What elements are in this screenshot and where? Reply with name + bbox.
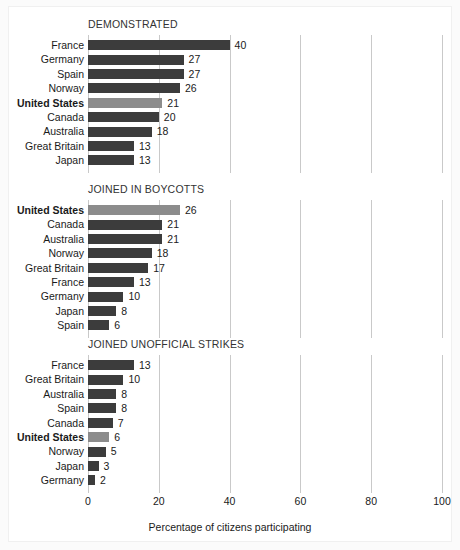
bar-value-label: 26: [185, 81, 197, 95]
bar-value-label: 7: [118, 416, 124, 430]
bar-value-label: 21: [167, 96, 179, 110]
category-label: Great Britain: [0, 139, 84, 153]
x-tick-label: 100: [433, 495, 451, 507]
x-axis-label: Percentage of citizens participating: [0, 521, 460, 533]
category-label: Spain: [0, 318, 84, 332]
bar: [88, 432, 109, 442]
chart-row: Norway18: [0, 246, 460, 260]
chart-row: Spain8: [0, 401, 460, 415]
category-label: United States: [0, 430, 84, 444]
category-label: Canada: [0, 110, 84, 124]
bar-value-label: 13: [139, 275, 151, 289]
chart-row: Germany2: [0, 473, 460, 487]
x-tick-label: 0: [85, 495, 91, 507]
x-tick-label: 60: [295, 495, 307, 507]
bar: [88, 40, 230, 50]
chart-row: France13: [0, 275, 460, 289]
category-label: France: [0, 38, 84, 52]
panel-plot-area: France13Great Britain10Australia8Spain8C…: [0, 355, 460, 493]
bar-value-label: 5: [111, 444, 117, 458]
bar: [88, 375, 123, 385]
panel-plot-area: United States26Canada21Australia21Norway…: [0, 200, 460, 338]
chart-figure: DEMONSTRATEDFrance40Germany27Spain27Norw…: [0, 0, 460, 550]
category-label: Germany: [0, 289, 84, 303]
chart-row: Japan13: [0, 153, 460, 167]
bar-value-label: 27: [189, 52, 201, 66]
bar: [88, 205, 180, 215]
panel-plot-area: France40Germany27Spain27Norway26United S…: [0, 35, 460, 173]
chart-row: Germany27: [0, 52, 460, 66]
bar: [88, 155, 134, 165]
category-label: Germany: [0, 52, 84, 66]
chart-row: Canada7: [0, 416, 460, 430]
bar-value-label: 8: [121, 387, 127, 401]
bar: [88, 447, 106, 457]
bar: [88, 69, 184, 79]
category-label: Australia: [0, 387, 84, 401]
bar: [88, 141, 134, 151]
bar-value-label: 27: [189, 67, 201, 81]
bar: [88, 306, 116, 316]
bar: [88, 263, 148, 273]
category-label: France: [0, 275, 84, 289]
category-label: Norway: [0, 246, 84, 260]
bar: [88, 360, 134, 370]
chart-row: Japan8: [0, 304, 460, 318]
chart-row: Germany10: [0, 289, 460, 303]
bar: [88, 277, 134, 287]
category-label: Japan: [0, 153, 84, 167]
bar-value-label: 21: [167, 232, 179, 246]
category-label: Norway: [0, 444, 84, 458]
bar-value-label: 13: [139, 139, 151, 153]
chart-row: United States21: [0, 96, 460, 110]
bar: [88, 248, 152, 258]
chart-row: Canada21: [0, 217, 460, 231]
bar: [88, 112, 159, 122]
bar: [88, 98, 162, 108]
category-label: Spain: [0, 67, 84, 81]
chart-row: Norway26: [0, 81, 460, 95]
chart-row: Great Britain13: [0, 139, 460, 153]
x-tick-label: 20: [153, 495, 165, 507]
category-label: Japan: [0, 459, 84, 473]
category-label: Great Britain: [0, 372, 84, 386]
chart-row: Norway5: [0, 444, 460, 458]
bar: [88, 403, 116, 413]
category-label: Canada: [0, 416, 84, 430]
category-label: Spain: [0, 401, 84, 415]
chart-row: United States26: [0, 203, 460, 217]
panel-title: DEMONSTRATED: [88, 18, 178, 30]
bar: [88, 127, 152, 137]
category-label: Japan: [0, 304, 84, 318]
bar-value-label: 8: [121, 401, 127, 415]
bar-value-label: 2: [100, 473, 106, 487]
category-label: United States: [0, 96, 84, 110]
category-label: Canada: [0, 217, 84, 231]
bar-value-label: 20: [164, 110, 176, 124]
bar: [88, 55, 184, 65]
bar: [88, 292, 123, 302]
bar-value-label: 21: [167, 217, 179, 231]
panel-title: JOINED UNOFFICIAL STRIKES: [88, 338, 244, 350]
x-tick-label: 80: [365, 495, 377, 507]
bar-value-label: 6: [114, 430, 120, 444]
bar-value-label: 18: [157, 246, 169, 260]
bar-value-label: 10: [128, 289, 140, 303]
bar: [88, 234, 162, 244]
chart-row: United States6: [0, 430, 460, 444]
category-label: Australia: [0, 232, 84, 246]
x-tick-label: 40: [224, 495, 236, 507]
category-label: Australia: [0, 124, 84, 138]
bar-value-label: 40: [235, 38, 247, 52]
bar: [88, 220, 162, 230]
chart-row: Australia18: [0, 124, 460, 138]
bar-value-label: 17: [153, 261, 165, 275]
category-label: Germany: [0, 473, 84, 487]
chart-row: Canada20: [0, 110, 460, 124]
bar: [88, 320, 109, 330]
category-label: Great Britain: [0, 261, 84, 275]
chart-row: France40: [0, 38, 460, 52]
bar-value-label: 18: [157, 124, 169, 138]
chart-row: Great Britain17: [0, 261, 460, 275]
panel-title: JOINED IN BOYCOTTS: [88, 183, 204, 195]
